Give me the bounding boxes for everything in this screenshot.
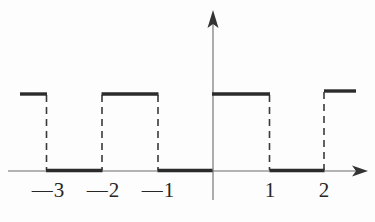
minus-sign-icon: — [142, 180, 163, 201]
square-wave-figure: —3 —2 —1 1 2 [0, 0, 375, 222]
x-tick-value-1: 1 [265, 178, 276, 202]
x-tick-value-minus-2: 2 [109, 178, 120, 202]
x-tick-value-minus-3: 3 [54, 178, 65, 202]
x-tick-label-minus-3: —3 [32, 180, 65, 201]
x-tick-value-2: 2 [319, 178, 330, 202]
x-tick-label-2: 2 [319, 180, 330, 201]
minus-sign-icon: — [87, 180, 108, 201]
x-tick-value-minus-1: 1 [164, 178, 175, 202]
x-tick-label-minus-2: —2 [87, 180, 120, 201]
x-tick-label-1: 1 [265, 180, 276, 201]
x-tick-label-minus-1: —1 [142, 180, 175, 201]
minus-sign-icon: — [32, 180, 53, 201]
